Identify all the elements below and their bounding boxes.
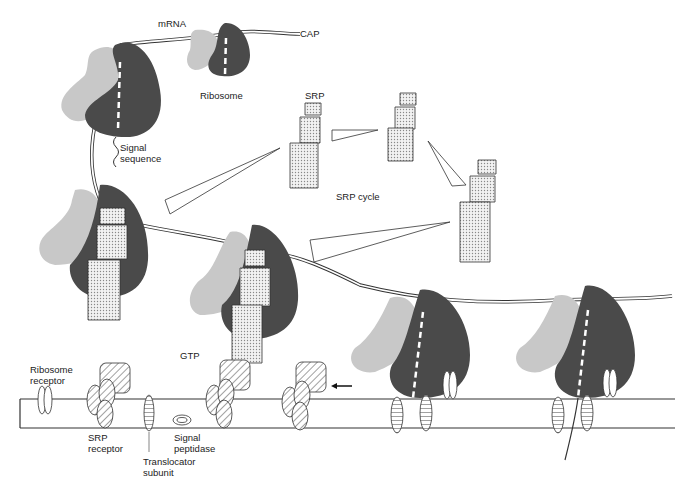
label-srp-receptor-2: receptor	[88, 443, 123, 454]
label-ribosome-receptor-2: receptor	[30, 375, 65, 386]
ribosome-docked-2	[516, 286, 635, 460]
label-signal-peptidase-1: Signal	[174, 432, 200, 443]
label-gtp: GTP	[180, 350, 200, 361]
label-signal-peptidase-2: peptidase	[174, 443, 215, 454]
release-arrow-icon	[331, 383, 352, 389]
ribosome-receptor	[38, 386, 52, 414]
srp-particle-2	[388, 93, 416, 161]
srp-particle-3	[460, 160, 496, 262]
label-ribosome-receptor-1: Ribosome	[30, 364, 73, 375]
srp-receptor-released	[282, 362, 326, 430]
label-ribosome: Ribosome	[200, 90, 243, 101]
ribosome-srp-bound-2	[190, 225, 298, 363]
mrna-strand	[92, 31, 672, 301]
label-srp-cycle: SRP cycle	[336, 191, 380, 202]
label-srp-receptor-1: SRP	[88, 432, 108, 443]
srp-receptor-gtp	[206, 360, 250, 428]
label-signal-sequence-1: Signal	[120, 142, 146, 153]
label-cap: CAP	[300, 28, 320, 39]
label-mrna: mRNA	[158, 18, 186, 29]
label-signal-sequence-2: sequence	[120, 153, 161, 164]
srp-particle-1	[290, 103, 321, 188]
ribosome-top	[187, 23, 250, 76]
ribosome-srp-bound-1	[39, 185, 148, 320]
label-translocator-2: subunit	[143, 467, 174, 478]
translocator-subunit	[144, 395, 154, 452]
signal-peptidase	[173, 415, 191, 425]
diagram-canvas	[0, 0, 697, 499]
label-translocator-1: Translocator	[143, 456, 195, 467]
srp-receptor	[87, 363, 130, 428]
label-srp: SRP	[305, 90, 325, 101]
